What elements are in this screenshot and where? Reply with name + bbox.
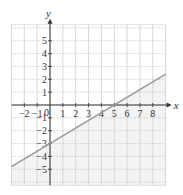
graph: xy−2−1012345678−5−4−3−2−112345 xyxy=(0,0,183,195)
x-axis-label: x xyxy=(173,99,179,111)
y-tick-label: 5 xyxy=(42,35,47,46)
y-axis-arrow-icon xyxy=(48,19,53,24)
y-tick-label: −2 xyxy=(36,125,47,136)
y-tick-label: −3 xyxy=(36,138,47,149)
y-tick-label: −5 xyxy=(36,164,47,175)
y-axis-label: y xyxy=(45,7,51,19)
x-tick-label: 5 xyxy=(112,108,117,119)
y-tick-label: 3 xyxy=(42,61,47,72)
y-tick-label: 2 xyxy=(42,74,47,85)
x-tick-label: 3 xyxy=(86,108,91,119)
y-tick-label: 4 xyxy=(42,48,47,59)
x-tick-label: −2 xyxy=(19,108,30,119)
x-axis-arrow-icon xyxy=(167,103,172,108)
x-tick-label: 8 xyxy=(150,108,155,119)
x-tick-label: 6 xyxy=(125,108,130,119)
y-tick-label: −4 xyxy=(36,151,47,162)
y-tick-label: 1 xyxy=(42,87,47,98)
x-tick-label: 2 xyxy=(73,108,78,119)
x-tick-label: 1 xyxy=(60,108,65,119)
y-tick-label: −1 xyxy=(36,112,47,123)
x-tick-label: 7 xyxy=(137,108,142,119)
